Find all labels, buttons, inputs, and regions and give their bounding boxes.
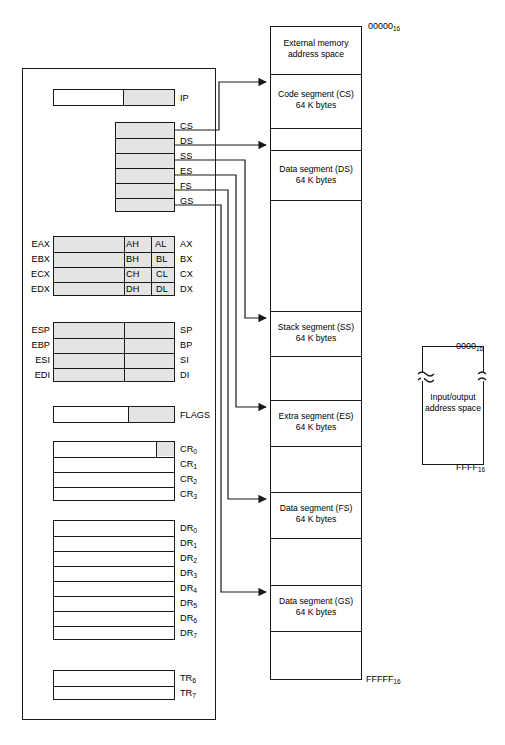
wire-cs-to-code-segment: [175, 82, 266, 130]
software-model-diagram: IP CS DS SS ES FS GS EAX AH AL AX EBX BH…: [0, 0, 505, 745]
break-icon: [418, 372, 486, 382]
wire-gs-to-data-segment-gs: [175, 205, 266, 592]
connector-wires: [0, 0, 505, 745]
